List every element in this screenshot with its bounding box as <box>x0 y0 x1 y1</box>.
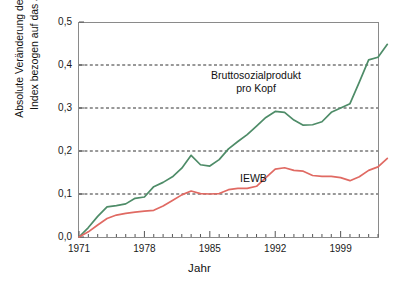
x-tick-label: 1992 <box>255 243 295 254</box>
y-tick-label: 0,3 <box>48 102 72 113</box>
series-label-bruttosozialprodukt-line2: pro Kopf <box>196 82 316 95</box>
chart-figure: Absolute Veränderung des skalierten Inde… <box>0 0 399 283</box>
x-axis-title: Jahr <box>0 262 399 274</box>
x-tick-label: 1985 <box>190 243 230 254</box>
series-label-bruttosozialprodukt: Bruttosozialprodukt pro Kopf <box>196 69 316 94</box>
y-tick-label: 0,1 <box>48 188 72 199</box>
x-tick-label: 1971 <box>59 243 99 254</box>
y-tick-label: 0,0 <box>48 231 72 242</box>
x-tick-label: 1999 <box>321 243 361 254</box>
y-tick-label: 0,2 <box>48 145 72 156</box>
x-tick-label: 1978 <box>124 243 164 254</box>
series-label-iewb: IEWB <box>240 172 267 185</box>
series-label-bruttosozialprodukt-line1: Bruttosozialprodukt <box>196 69 316 82</box>
y-tick-label: 0,4 <box>48 59 72 70</box>
plot-frame <box>79 23 379 238</box>
y-tick-label: 0,5 <box>48 16 72 27</box>
